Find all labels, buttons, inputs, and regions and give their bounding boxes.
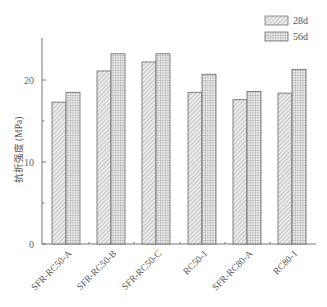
bar-RC80-1-28d xyxy=(278,93,292,244)
legend-swatch-28d xyxy=(265,16,288,25)
bar-chart: 01020 抗折强度 (MPa) SFR-RC50-ASFR-RC50-BSFR… xyxy=(0,0,327,307)
category-label: SFR-RC50-A xyxy=(29,248,73,292)
category-labels: SFR-RC50-ASFR-RC50-BSFR-RC50-CRC50-1SFR-… xyxy=(29,248,299,292)
bar-SFR-RC50-A-28d xyxy=(52,102,66,244)
legend-swatch-56d xyxy=(265,32,288,41)
bar-SFR-RC50-C-28d xyxy=(142,62,156,244)
bar-SFR-RC50-C-56d xyxy=(156,54,170,244)
bar-SFR-RC50-A-56d xyxy=(66,92,80,244)
bar-RC80-1-56d xyxy=(292,69,306,244)
bar-SFR-RC50-B-28d xyxy=(97,71,111,244)
y-axis-label: 抗折强度 (MPa) xyxy=(13,117,25,184)
category-label: RC50-1 xyxy=(181,248,210,277)
bar-RC50-1-28d xyxy=(188,92,202,244)
category-label: SFR-RC50-C xyxy=(120,248,164,292)
bars xyxy=(52,54,306,244)
bar-SFR-RC80-A-56d xyxy=(247,91,261,244)
bar-SFR-RC80-A-28d xyxy=(233,100,247,244)
legend-label-28d: 28d xyxy=(293,15,308,26)
y-tick-label: 10 xyxy=(24,157,34,168)
bar-SFR-RC50-B-56d xyxy=(111,54,125,244)
y-tick-label: 0 xyxy=(29,239,34,250)
category-label: RC80-1 xyxy=(271,248,300,277)
category-label: SFR-RC80-A xyxy=(210,248,254,292)
y-tick-label: 20 xyxy=(24,75,34,86)
category-label: SFR-RC50-B xyxy=(75,248,119,292)
legend-label-56d: 56d xyxy=(293,31,308,42)
legend: 28d 56d xyxy=(265,15,308,42)
bar-RC50-1-56d xyxy=(202,74,216,244)
